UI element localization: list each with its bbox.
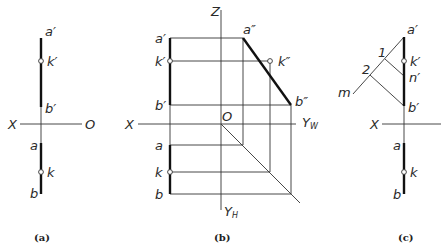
caption-b: (b)	[214, 232, 230, 243]
label-b: b	[393, 187, 401, 202]
label-b-prime: b′	[155, 98, 166, 113]
point-k	[168, 170, 173, 175]
label-k: k	[47, 165, 55, 180]
label-b: b	[155, 187, 163, 202]
panel-b: Z a′ k′ b′ a″ k″ b″ X O YW a k b YH (b)	[124, 4, 319, 243]
label-k: k	[410, 165, 418, 180]
label-k: k	[155, 165, 163, 180]
division-line-2b	[370, 75, 404, 106]
label-a: a	[30, 138, 38, 153]
point-k-prime	[39, 59, 44, 64]
label-yh-axis: YH	[224, 204, 238, 220]
label-origin: O	[222, 109, 232, 124]
label-a-double-prime: a″	[243, 22, 256, 37]
label-origin: O	[85, 117, 95, 132]
label-a-prime: a′	[45, 24, 56, 39]
label-a: a	[155, 138, 163, 153]
label-k-prime: k′	[410, 54, 421, 69]
label-a-prime: a′	[407, 22, 418, 37]
45-degree-line	[221, 124, 300, 203]
label-b-prime: b′	[45, 101, 56, 116]
point-k-prime	[168, 59, 173, 64]
point-k	[402, 170, 407, 175]
label-a: a	[393, 138, 401, 153]
point-k-prime	[402, 59, 407, 64]
label-point-1: 1	[378, 45, 386, 60]
panel-a: a′ k′ b′ X O a k b (a)	[7, 24, 95, 243]
label-k-double-prime: k″	[278, 54, 291, 69]
label-b-double-prime: b″	[295, 94, 308, 109]
label-k-prime: k′	[155, 54, 166, 69]
label-b-prime: b′	[408, 100, 419, 115]
label-point-2: 2	[362, 62, 370, 77]
projection-diagram: a′ k′ b′ X O a k b (a)	[0, 0, 445, 251]
label-k-prime: k′	[47, 54, 58, 69]
caption-c: (c)	[398, 232, 414, 243]
label-b: b	[30, 186, 38, 201]
division-line-1n	[385, 59, 404, 76]
label-x-axis: X	[124, 117, 135, 132]
caption-a: (a)	[34, 232, 50, 243]
label-a-prime: a′	[155, 31, 166, 46]
segment-ab-side-view	[243, 38, 291, 105]
label-yw-axis: YW	[302, 115, 319, 131]
point-k	[39, 170, 44, 175]
point-k-double-prime	[268, 59, 273, 64]
label-z-axis: Z	[210, 4, 221, 19]
label-x-axis: X	[7, 117, 18, 132]
label-n-prime: n′	[409, 70, 420, 85]
panel-c: a′ k′ n′ b′ 1 2 m X a k b (c)	[338, 22, 441, 243]
label-x-axis: X	[369, 117, 380, 132]
label-line-m: m	[338, 85, 351, 100]
